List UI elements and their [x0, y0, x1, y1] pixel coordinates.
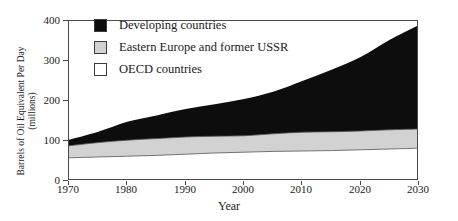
- legend-label-eastern-europe: Eastern Europe and former USSR: [119, 41, 288, 54]
- x-tick-label-1980: 1980: [115, 183, 137, 195]
- y-tick-label-200: 200: [44, 95, 61, 106]
- x-tick-label-1970: 1970: [57, 183, 79, 195]
- stacked-area-chart-figure: Barrels of Oil Equivalent Per Day (milli…: [0, 0, 458, 221]
- x-tick-label-2030: 2030: [407, 183, 429, 195]
- legend-swatch-eastern-europe: [94, 41, 107, 54]
- legend-swatch-developing-countries: [94, 19, 107, 32]
- x-tick-label-2020: 2020: [349, 183, 371, 195]
- legend-label-oecd-countries: OECD countries: [119, 63, 202, 76]
- y-axis-title: Barrels of Oil Equivalent Per Day (milli…: [16, 26, 38, 196]
- x-tick-label-1990: 1990: [174, 183, 196, 195]
- legend-item-eastern-europe: Eastern Europe and former USSR: [94, 36, 354, 58]
- x-tick-label-2010: 2010: [290, 183, 312, 195]
- y-axis-title-line1: Barrels of Oil Equivalent Per Day: [16, 47, 26, 176]
- y-axis-title-line2: (millions): [27, 26, 38, 196]
- legend-item-developing-countries: Developing countries: [94, 14, 354, 36]
- chart-legend: Developing countries Eastern Europe and …: [94, 14, 354, 80]
- legend-item-oecd-countries: OECD countries: [94, 58, 354, 80]
- legend-label-developing-countries: Developing countries: [119, 19, 226, 32]
- y-tick-label-300: 300: [44, 55, 61, 66]
- x-axis-title: Year: [0, 199, 458, 213]
- y-tick-label-400: 400: [44, 15, 61, 26]
- y-tick-label-100: 100: [44, 135, 61, 146]
- legend-swatch-oecd-countries: [94, 63, 107, 76]
- x-tick-label-2000: 2000: [232, 183, 254, 195]
